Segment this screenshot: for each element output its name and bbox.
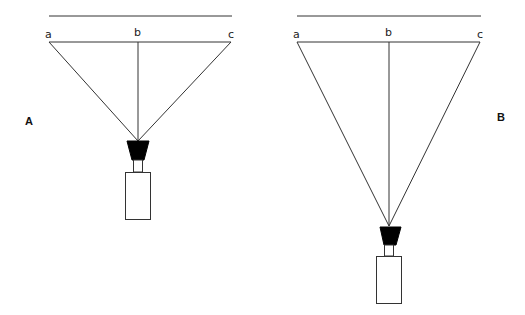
panel-b-drawing [297, 16, 481, 304]
panel-a-point-c-label: c [228, 29, 234, 40]
panel-b-point-b-label: b [385, 27, 392, 38]
panel-b-ray-c [389, 42, 480, 226]
panel-b-lens-stem [385, 245, 394, 256]
panel-a-ray-a [49, 42, 138, 141]
panel-b-ray-a [297, 42, 389, 226]
panel-b-point-c-label: c [477, 29, 483, 40]
panel-a-lens-stem [134, 160, 143, 172]
panel-b-lens-icon [380, 227, 401, 245]
panel-a-camera-body-icon [126, 173, 151, 220]
panel-a-ray-c [138, 42, 231, 141]
diagram-canvas [0, 0, 525, 315]
panel-a-lens-icon [127, 141, 149, 160]
panel-a-point-a-label: a [45, 29, 52, 40]
panel-a-label: A [25, 116, 33, 127]
panel-a-point-b-label: b [134, 27, 141, 38]
panel-b-point-a-label: a [293, 29, 300, 40]
panel-a-drawing [49, 16, 232, 220]
panel-b-camera-body-icon [377, 257, 402, 304]
panel-b-label: B [497, 112, 505, 123]
